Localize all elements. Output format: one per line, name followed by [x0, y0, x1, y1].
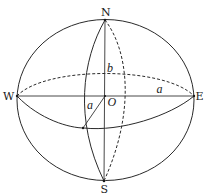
label-north: N	[101, 6, 111, 19]
label-semi-minor-b: b	[107, 61, 113, 75]
point-center	[104, 95, 106, 97]
label-west: W	[3, 90, 15, 103]
point-west	[16, 95, 18, 97]
point-front-intersection	[82, 127, 84, 129]
outer-ellipse-outline	[17, 20, 194, 181]
label-semi-major-a: a	[157, 82, 163, 96]
polar-axis-NS	[104, 20, 105, 181]
label-east: E	[196, 90, 204, 103]
label-south: S	[101, 183, 109, 195]
label-center: O	[108, 95, 117, 109]
back-equator-dashed	[17, 74, 194, 97]
point-north	[104, 19, 107, 22]
point-south	[103, 180, 106, 183]
label-oblique-a: a	[87, 98, 93, 112]
ellipsoid-diagram: N S W E O b a a	[0, 0, 205, 195]
front-equator-solid	[17, 96, 194, 129]
